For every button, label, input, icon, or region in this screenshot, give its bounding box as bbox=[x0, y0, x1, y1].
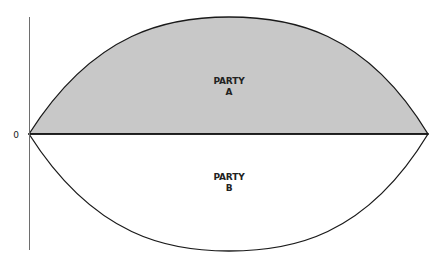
party-a-label-line1: PARTY bbox=[214, 76, 246, 86]
origin-label: 0 bbox=[13, 130, 19, 140]
party-a-label-line2: A bbox=[226, 87, 233, 97]
party-lens-diagram: 0 PARTY A PARTY B bbox=[0, 0, 441, 267]
party-b-label-line1: PARTY bbox=[214, 172, 246, 182]
party-b-label-line2: B bbox=[226, 183, 233, 193]
